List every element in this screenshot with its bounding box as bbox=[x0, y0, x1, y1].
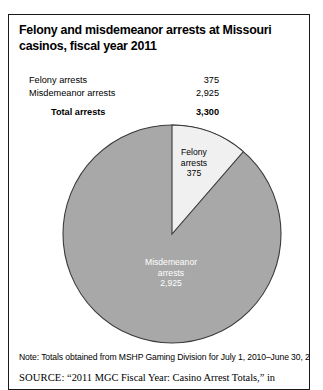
table-row-value: 2,925 bbox=[196, 87, 219, 100]
pie-label-felony-value: 375 bbox=[165, 168, 223, 179]
table-row-label: Felony arrests bbox=[29, 74, 87, 87]
table-row: Felony arrests 375 bbox=[29, 74, 219, 87]
figure-source: SOURCE: “2011 MGC Fiscal Year: Casino Ar… bbox=[19, 372, 307, 384]
table-row: Misdemeanor arrests 2,925 bbox=[29, 87, 219, 100]
figure-source-text: “2011 MGC Fiscal Year: Casino Arrest Tot… bbox=[67, 372, 275, 383]
pie-label-felony-line2: arrests bbox=[165, 158, 223, 169]
pie-label-felony-line1: Felony bbox=[165, 147, 223, 158]
pie-label-misdemeanor-line1: Misdemeanor bbox=[123, 257, 219, 268]
data-summary-table: Felony arrests 375 Misdemeanor arrests 2… bbox=[29, 74, 219, 119]
figure-source-label: SOURCE: bbox=[19, 372, 64, 383]
table-row-value: 375 bbox=[204, 74, 219, 87]
figure-title: Felony and misdemeanor arrests at Missou… bbox=[19, 23, 301, 54]
table-row-label: Misdemeanor arrests bbox=[29, 87, 115, 100]
figure-note: Note: Totals obtained from MSHP Gaming D… bbox=[19, 352, 307, 363]
table-total-value: 3,300 bbox=[196, 106, 219, 119]
pie-label-misdemeanor-value: 2,925 bbox=[123, 278, 219, 289]
pie-label-felony: Felony arrests 375 bbox=[165, 147, 223, 179]
pie-label-misdemeanor-line2: arrests bbox=[123, 268, 219, 279]
table-total-row: Total arrests 3,300 bbox=[29, 106, 219, 119]
table-total-label: Total arrests bbox=[51, 106, 105, 119]
figure-frame: Felony and misdemeanor arrests at Missou… bbox=[8, 14, 310, 390]
pie-chart: Felony arrests 375 Misdemeanor arrests 2… bbox=[57, 119, 287, 349]
pie-label-misdemeanor: Misdemeanor arrests 2,925 bbox=[123, 257, 219, 289]
